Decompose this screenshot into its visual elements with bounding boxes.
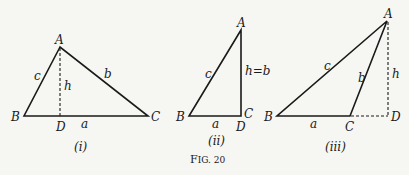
vertex-a-label: A: [383, 7, 393, 21]
side-b-label: b: [358, 71, 366, 85]
caption-rest: IG. 20: [198, 155, 226, 165]
vertex-a-label: A: [54, 33, 64, 47]
vertex-b-label: B: [10, 110, 20, 124]
side-c-label: c: [34, 69, 41, 83]
triangle-abc-i: [24, 47, 148, 116]
sublabel-ii: (ii): [208, 134, 225, 148]
altitude-h-label: h: [392, 67, 400, 81]
side-a-label: a: [81, 117, 88, 131]
figure-20: A B C D c b h a (i) A B C D c h=b a (ii)…: [0, 0, 409, 175]
vertex-c-label: C: [151, 110, 160, 124]
vertex-b-label: B: [263, 110, 273, 124]
sublabel-iii: (iii): [325, 140, 346, 154]
vertex-d-label: D: [235, 120, 246, 134]
altitude-h-label: h: [64, 79, 72, 93]
vertex-d-label: D: [390, 110, 401, 124]
vertex-c-label: C: [345, 120, 354, 134]
side-a-label: a: [310, 117, 317, 131]
vertex-a-label: A: [236, 16, 246, 30]
figure-caption: FIG. 20: [190, 153, 226, 166]
side-c-label: c: [324, 59, 331, 73]
vertex-c-label: C: [244, 107, 253, 121]
vertex-d-label: D: [55, 120, 66, 134]
diagram-i: A B C D c b h a (i): [10, 33, 160, 154]
side-a-label: a: [212, 117, 219, 131]
vertex-b-label: B: [175, 110, 185, 124]
side-c-label: c: [205, 67, 212, 81]
diagram-iii: A B C D c b h a (iii): [263, 7, 401, 154]
diagram-ii: A B C D c h=b a (ii): [175, 16, 270, 148]
sublabel-i: (i): [74, 140, 88, 154]
side-b-label: b: [104, 67, 112, 81]
side-h-equals-b-label: h=b: [245, 64, 270, 78]
triangle-abc-iii: [277, 21, 387, 116]
triangle-abc-ii: [189, 30, 241, 116]
